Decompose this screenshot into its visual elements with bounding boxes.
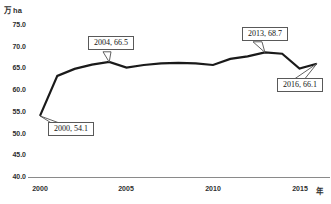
y-tick-50: 50.0 bbox=[0, 129, 26, 139]
annotation-callout-2004: 2004, 66.5 bbox=[88, 36, 134, 50]
y-tick-70: 70.0 bbox=[0, 42, 26, 52]
y-tick-40: 40.0 bbox=[0, 172, 26, 182]
annotation-callout-2013: 2013, 68.7 bbox=[242, 27, 288, 41]
y-tick-45: 45.0 bbox=[0, 150, 26, 160]
x-tick-2015: 2015 bbox=[285, 184, 315, 194]
y-tick-55: 55.0 bbox=[0, 107, 26, 117]
y-tick-65: 65.0 bbox=[0, 63, 26, 73]
line-chart: 万 ha 75.0 70.0 65.0 60.0 55.0 50.0 45.0 … bbox=[0, 0, 331, 204]
annotation-callout-2016: 2016, 66.1 bbox=[277, 78, 323, 92]
y-tick-60: 60.0 bbox=[0, 85, 26, 95]
annotation-pointer-2004 bbox=[103, 52, 111, 62]
x-tick-2000: 2000 bbox=[25, 184, 55, 194]
x-tick-2010: 2010 bbox=[198, 184, 228, 194]
y-axis-unit-label: 万 ha bbox=[4, 4, 22, 15]
x-tick-2005: 2005 bbox=[111, 184, 141, 194]
annotation-callout-2000: 2000, 54.1 bbox=[48, 122, 94, 136]
y-tick-75: 75.0 bbox=[0, 20, 26, 30]
x-axis-unit-label: 年 bbox=[316, 185, 323, 196]
data-series-line bbox=[40, 52, 317, 116]
annotation-pointer-2013 bbox=[253, 42, 265, 53]
